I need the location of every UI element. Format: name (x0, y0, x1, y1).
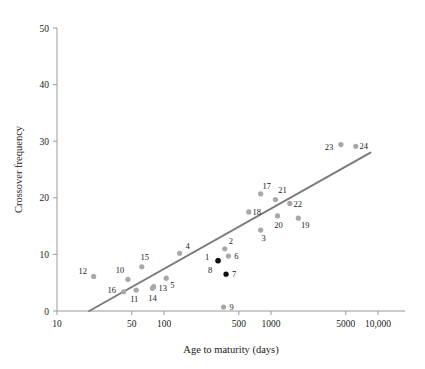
data-point-label: 21 (278, 185, 287, 195)
data-point-label: 15 (141, 252, 150, 262)
data-point (91, 274, 96, 279)
data-point (177, 251, 182, 256)
data-point-label: 7 (232, 269, 236, 279)
data-point-label: 5 (170, 280, 174, 290)
x-axis-title: Age to maturity (days) (183, 344, 279, 356)
data-point (353, 144, 358, 149)
scatter-chart: 0102030405010501005001000500010,000 1234… (0, 0, 425, 369)
data-points: 123456789101112131415161718192021222324 (78, 141, 368, 312)
data-point (121, 289, 126, 294)
trendline (89, 153, 370, 311)
x-tick-label: 100 (157, 319, 172, 329)
y-tick-label: 50 (40, 24, 50, 34)
data-point (134, 287, 139, 292)
data-point-label: 9 (229, 302, 233, 312)
data-point (221, 304, 226, 309)
data-point-label: 4 (186, 241, 191, 251)
y-tick-label: 10 (40, 250, 50, 260)
x-tick-label: 10,000 (365, 319, 391, 329)
data-point (215, 258, 220, 263)
data-point (338, 142, 343, 147)
regression-line (89, 153, 370, 311)
data-point-label: 19 (301, 220, 310, 230)
data-point (125, 277, 130, 282)
data-point (139, 264, 144, 269)
x-tick-label: 1000 (262, 319, 281, 329)
data-point-label: 8 (208, 265, 212, 275)
data-point-label: 18 (253, 207, 262, 217)
data-point-label: 12 (78, 266, 87, 276)
data-point-label: 22 (294, 199, 303, 209)
data-point-label: 24 (360, 141, 369, 151)
data-point-label: 11 (130, 294, 138, 304)
data-point-label: 2 (229, 236, 233, 246)
data-point (150, 286, 155, 291)
y-tick-label: 0 (44, 307, 49, 317)
data-point-label: 3 (262, 233, 266, 243)
y-tick-label: 40 (40, 80, 50, 90)
y-tick-label: 30 (40, 137, 50, 147)
data-point (258, 191, 263, 196)
data-point-label: 1 (205, 252, 209, 262)
data-point (287, 201, 292, 206)
y-axis-title: Crossover frequency (13, 125, 24, 213)
y-tick-label: 20 (40, 193, 50, 203)
data-point (226, 253, 231, 258)
x-tick-label: 5000 (336, 319, 355, 329)
data-point-label: 23 (325, 142, 334, 152)
data-point (246, 209, 251, 214)
data-point-label: 6 (234, 251, 238, 261)
data-point-label: 14 (148, 293, 157, 303)
x-tick-label: 50 (127, 319, 137, 329)
data-point (273, 197, 278, 202)
x-tick-label: 10 (52, 319, 62, 329)
data-point-label: 13 (158, 283, 167, 293)
data-point-label: 16 (107, 285, 116, 295)
data-point-label: 20 (274, 220, 283, 230)
chart-canvas: 0102030405010501005001000500010,000 1234… (0, 0, 425, 369)
data-point (222, 246, 227, 251)
data-point (223, 272, 228, 277)
data-point (164, 276, 169, 281)
data-point-label: 10 (116, 265, 125, 275)
data-point (258, 227, 263, 232)
x-tick-label: 500 (232, 319, 247, 329)
axes: 0102030405010501005001000500010,000 (40, 24, 406, 330)
data-point (275, 213, 280, 218)
data-point-label: 17 (262, 181, 271, 191)
